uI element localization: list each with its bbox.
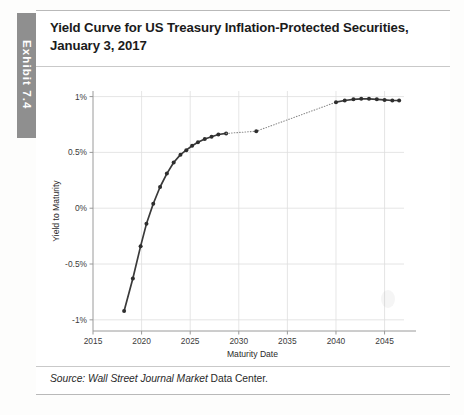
source-divider: [36, 366, 450, 367]
series-line: [124, 133, 226, 310]
yield-curve-chart: -1%-0.5%0%0.5%1%201520202025203020352040…: [36, 69, 450, 365]
exhibit-page: Exhibit 7.4 Yield Curve for US Treasury …: [0, 0, 464, 415]
y-tick-label: 0%: [75, 203, 88, 213]
data-point-marker: [172, 160, 176, 164]
chart-series: [122, 97, 401, 313]
y-tick-label: -0.5%: [65, 259, 87, 269]
exhibit-card: Yield Curve for US Treasury Inflation-Pr…: [36, 10, 450, 395]
chart-gridlines: [93, 91, 404, 331]
scan-artifact: [381, 290, 395, 308]
data-point-marker: [210, 135, 214, 139]
y-axis-title: Yield to Maturity: [51, 180, 61, 242]
chart-axes: [90, 91, 417, 335]
exhibit-number-tab: Exhibit 7.4: [17, 13, 36, 138]
exhibit-title-line-2: January 3, 2017: [50, 37, 432, 55]
data-point-marker: [131, 277, 135, 281]
source-publication: Wall Street Journal Market: [88, 373, 208, 384]
data-point-marker: [122, 309, 126, 313]
data-point-marker: [151, 202, 155, 206]
source-prefix: Source:: [50, 373, 85, 384]
data-point-marker: [367, 97, 371, 101]
data-point-marker: [158, 185, 162, 189]
data-point-marker: [343, 98, 347, 102]
data-point-marker: [184, 148, 188, 152]
data-point-marker: [375, 97, 379, 101]
source-suffix: Data Center.: [211, 373, 268, 384]
x-tick-label: 2045: [375, 336, 394, 346]
data-point-marker: [359, 97, 363, 101]
y-tick-label: -1%: [72, 315, 87, 325]
data-point-marker: [178, 153, 182, 157]
data-point-marker: [334, 100, 338, 104]
data-point-marker: [351, 97, 355, 101]
x-tick-label: 2025: [181, 336, 200, 346]
data-point-marker: [216, 133, 220, 137]
series-line: [226, 102, 336, 133]
data-point-marker: [139, 244, 143, 248]
exhibit-title: Yield Curve for US Treasury Inflation-Pr…: [50, 19, 432, 54]
data-point-marker: [254, 129, 258, 133]
title-divider: [36, 66, 450, 67]
x-tick-label: 2035: [278, 336, 297, 346]
chart-svg: -1%-0.5%0%0.5%1%201520202025203020352040…: [36, 69, 450, 365]
x-tick-label: 2015: [84, 336, 103, 346]
chart-tick-labels: -1%-0.5%0%0.5%1%201520202025203020352040…: [51, 92, 394, 359]
exhibit-title-line-1: Yield Curve for US Treasury Inflation-Pr…: [50, 19, 432, 37]
x-axis-title: Maturity Date: [227, 349, 278, 359]
data-point-marker: [390, 98, 394, 102]
data-point-marker: [144, 222, 148, 226]
x-tick-label: 2040: [327, 336, 346, 346]
data-point-marker: [397, 98, 401, 102]
y-tick-label: 0.5%: [68, 147, 88, 157]
data-point-marker: [196, 140, 200, 144]
data-point-marker: [383, 98, 387, 102]
source-note: Source: Wall Street Journal Market Data …: [50, 373, 268, 384]
x-tick-label: 2020: [132, 336, 151, 346]
data-point-marker: [190, 144, 194, 148]
data-point-marker: [203, 137, 207, 141]
y-tick-label: 1%: [75, 92, 88, 102]
data-point-marker: [165, 172, 169, 176]
x-tick-label: 2030: [229, 336, 248, 346]
exhibit-number-label: Exhibit 7.4: [21, 40, 33, 110]
